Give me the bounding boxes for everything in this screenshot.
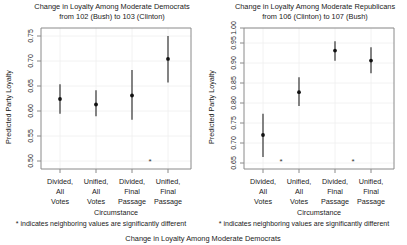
xcat-3-line-2: Passage [154,197,182,206]
xcat-0-line-0: Divided, [250,177,276,186]
panel-moderate-democrats: Change in Loyalty Among Moderate Democra… [0,0,203,232]
panel-right-svg: Change in Loyalty Among Moderate Republi… [203,0,407,232]
datapoint-group [94,90,98,116]
panel-right-ytick-0: 0.65 [230,156,237,170]
panel-left-y-axis-label: Predicted Party Loyalty [4,70,13,144]
panel-right-category-labels: Divided, All Votes Unified, All Votes Di… [250,177,385,206]
xcat-2-line-2: Passage [321,197,349,206]
xcat-3-line-0: Unified, [359,177,383,186]
xcat-1-line-1: All [295,187,303,196]
panel-left-datapoints [58,36,170,120]
panel-left-category-labels: Divided, All Votes Unified, All Votes Di… [47,177,182,206]
xcat-1-line-2: Votes [290,197,308,206]
panel-right-title-line2: from 106 (Clinton) to 107 (Bush) [262,12,368,21]
clipped-title-svg: Change in Loyalty Among Moderate Democra… [0,232,407,245]
panel-left-x-axis-label: Circumstance [94,208,138,217]
xcat-2-line-0: Divided, [322,177,348,186]
clipped-next-figure-title: Change in Loyalty Among Moderate Democra… [0,232,407,245]
xcat-2-line-0: Divided, [119,177,145,186]
panel-left-x-ticks [60,169,168,173]
panel-left-ytick-2: 0.60 [27,104,34,118]
datapoint-group [58,84,62,114]
datapoint-group [130,70,134,120]
panel-right-ytick-5: 0.90 [230,56,237,70]
panel-left-ytick-3: 0.65 [27,79,34,93]
panel-left-svg: Change in Loyalty Among Moderate Democra… [0,0,203,232]
significance-star: * [148,157,151,166]
panel-right-datapoints [261,41,373,157]
panel-left-ytick-1: 0.55 [27,129,34,143]
panel-right-x-ticks [263,169,371,173]
panel-right-ytick-3: 0.80 [230,96,237,110]
datapoint-group [261,114,265,157]
panel-right-ytick-2: 0.75 [230,116,237,130]
xcat-3-line-1: Final [363,187,379,196]
panel-left-ytick-0: 0.50 [27,154,34,168]
panel-right-ytick-7: 1.00 [230,21,237,35]
figure-container: Change in Loyalty Among Moderate Democra… [0,0,407,245]
panel-right-ytick-4: 0.85 [230,76,237,90]
panel-right-y-ticks: 0.65 0.70 0.75 0.80 0.85 0.90 0.95 1.00 [230,21,244,170]
significance-star: * [351,157,354,166]
panel-right-significance-markers: * * [279,157,354,166]
xcat-0-line-2: Votes [51,197,69,206]
xcat-1-line-0: Unified, [287,177,311,186]
panel-left-title-line2: from 102 (Bush) to 103 (Clinton) [59,12,165,21]
xcat-3-line-0: Unified, [156,177,180,186]
xcat-1-line-1: All [92,187,100,196]
datapoint-group [369,47,373,73]
significance-star: * [279,157,282,166]
panel-left-significance-markers: * [148,157,151,166]
panel-left-ytick-4: 0.70 [27,54,34,68]
xcat-1-line-2: Votes [87,197,105,206]
xcat-0-line-2: Votes [254,197,272,206]
panel-right-ytick-1: 0.70 [230,136,237,150]
panel-right-y-axis-label: Predicted Party Loyalty [207,70,216,144]
panel-right-annotation: * indicates neighboring values are signi… [219,220,389,228]
xcat-2-line-1: Final [124,187,140,196]
clipped-title-text: Change in Loyalty Among Moderate Democra… [125,234,281,243]
xcat-2-line-2: Passage [118,197,146,206]
xcat-3-line-2: Passage [357,197,385,206]
datapoint-group [297,77,301,106]
panel-right-ytick-6: 0.95 [230,36,237,50]
panel-left-annotation: * indicates neighboring values are signi… [16,220,186,228]
datapoint-group [166,36,170,83]
xcat-0-line-1: All [56,187,64,196]
xcat-0-line-0: Divided, [47,177,73,186]
panel-left-ytick-5: 0.75 [27,29,34,43]
xcat-2-line-1: Final [327,187,343,196]
panel-left-y-ticks: 0.50 0.55 0.60 0.65 0.70 0.75 [27,29,41,168]
panel-moderate-republicans: Change in Loyalty Among Moderate Republi… [203,0,406,232]
xcat-0-line-1: All [259,187,267,196]
xcat-1-line-0: Unified, [84,177,108,186]
xcat-3-line-1: Final [160,187,176,196]
panel-right-title-line1: Change in Loyalty Among Moderate Republi… [235,2,396,11]
panel-right-x-axis-label: Circumstance [297,208,341,217]
datapoint-group [333,41,337,61]
panel-left-title-line1: Change in Loyalty Among Moderate Democra… [34,2,190,11]
